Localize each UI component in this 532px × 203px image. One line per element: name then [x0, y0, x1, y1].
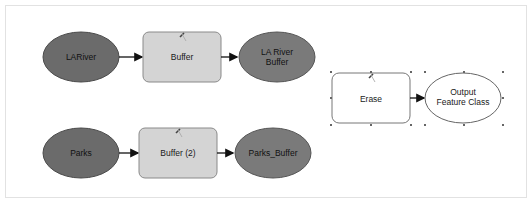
node-label: LARiver — [66, 52, 96, 62]
tool-label: Buffer (2) — [160, 148, 195, 158]
node-label: Parks_Buffer — [249, 148, 298, 158]
node-parks[interactable]: Parks — [43, 128, 119, 178]
node-parks-buffer[interactable]: Parks_Buffer — [235, 128, 311, 178]
node-label-line1: Output — [450, 87, 476, 97]
tool-buffer[interactable]: Buffer — [143, 32, 221, 82]
node-label-line2: Feature Class — [437, 97, 490, 107]
node-lariver[interactable]: LARiver — [43, 32, 119, 82]
node-label-line1: LA River — [261, 47, 293, 57]
node-la-river-buffer[interactable]: LA River Buffer — [239, 32, 315, 82]
node-label: Parks — [70, 148, 92, 158]
node-label-line2: Buffer — [266, 57, 289, 67]
tool-erase[interactable]: Erase — [330, 71, 412, 126]
tool-label: Buffer — [171, 52, 194, 62]
tool-label: Erase — [360, 94, 382, 104]
model-diagram: LARiver Buffer LA River Buffer Parks Buf… — [0, 0, 532, 203]
tool-buffer-2[interactable]: Buffer (2) — [139, 128, 217, 178]
node-output-feature-class[interactable]: Output Feature Class — [424, 71, 504, 126]
